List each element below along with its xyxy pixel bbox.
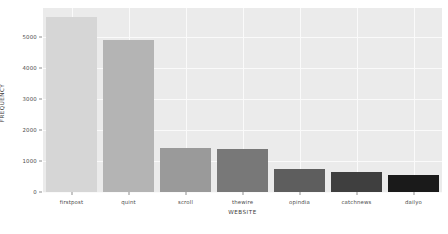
bar-chart-figure: 010002000300040005000 FREQUENCY firstpos… [0, 0, 448, 234]
y-tick-mark [39, 99, 42, 100]
plot-area [43, 8, 442, 192]
y-tick-mark [39, 130, 42, 131]
x-tick-label-thewire: thewire [232, 199, 253, 205]
x-tick-mark [413, 192, 414, 195]
x-tick-mark [299, 192, 300, 195]
x-axis: firstpostquintscrollthewireopindiacatchn… [43, 192, 442, 234]
x-tick-label-catchnews: catchnews [341, 199, 371, 205]
y-tick-mark [39, 68, 42, 69]
y-tick-mark [39, 37, 42, 38]
bar-series [43, 8, 442, 192]
x-tick-mark [242, 192, 243, 195]
x-tick-mark [128, 192, 129, 195]
x-tick-label-scroll: scroll [178, 199, 193, 205]
x-tick-label-opindia: opindia [289, 199, 310, 205]
y-tick-mark [39, 192, 42, 193]
x-tick-mark [356, 192, 357, 195]
y-tick-mark [39, 161, 42, 162]
y-tick-label: 1000 [22, 158, 37, 164]
bar-scroll [160, 148, 211, 192]
bar-dailyo [388, 175, 439, 192]
x-tick-mark [71, 192, 72, 195]
y-axis: 010002000300040005000 FREQUENCY [0, 0, 43, 234]
x-tick-label-quint: quint [121, 199, 136, 205]
bar-catchnews [331, 172, 382, 192]
x-tick-label-dailyo: dailyo [405, 199, 422, 205]
bar-thewire [217, 149, 268, 192]
y-tick-label: 3000 [22, 96, 37, 102]
x-axis-title: WEBSITE [228, 209, 256, 215]
y-axis-title: FREQUENCY [0, 84, 5, 123]
bar-firstpost [46, 17, 97, 192]
y-tick-label: 2000 [22, 127, 37, 133]
bar-quint [103, 40, 154, 192]
y-tick-label: 0 [33, 189, 37, 195]
x-tick-label-firstpost: firstpost [60, 199, 84, 205]
y-tick-label: 4000 [22, 65, 37, 71]
y-tick-label: 5000 [22, 34, 37, 40]
x-tick-mark [185, 192, 186, 195]
bar-opindia [274, 169, 325, 192]
